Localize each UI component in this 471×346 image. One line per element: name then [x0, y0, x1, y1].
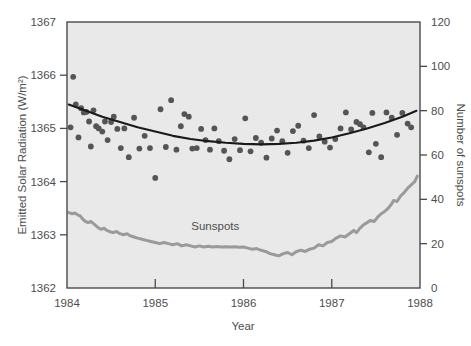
scatter-point — [121, 126, 127, 132]
x-axis-tick-label: 1985 — [142, 297, 168, 309]
scatter-point — [311, 112, 317, 118]
scatter-point — [99, 129, 105, 135]
x-axis-tick-label: 1988 — [407, 297, 433, 309]
scatter-point — [86, 119, 92, 125]
y-axis-right-tick-label: 120 — [431, 16, 450, 28]
scatter-point — [237, 147, 243, 153]
scatter-point — [174, 147, 180, 153]
scatter-point — [211, 126, 217, 132]
scatter-point — [378, 154, 384, 160]
scatter-point — [142, 133, 148, 139]
y-axis-right-tick-label: 100 — [431, 60, 450, 72]
y-axis-left-title: Emitted Solar Radiation (W/m²) — [16, 75, 28, 234]
scatter-point — [264, 155, 270, 161]
y-axis-left-tick-label: 1367 — [30, 16, 56, 28]
scatter-point — [136, 146, 142, 152]
scatter-point — [131, 115, 137, 121]
x-axis-tick-label: 1987 — [319, 297, 345, 309]
y-axis-left-tick-label: 1362 — [30, 282, 56, 294]
scatter-point — [369, 110, 375, 116]
series-annotations: Sunspots — [191, 220, 239, 232]
y-axis-left-tick-label: 1366 — [30, 69, 56, 81]
scatter-point — [343, 110, 349, 116]
scatter-point — [221, 148, 227, 154]
scatter-point — [384, 110, 390, 116]
scatter-point — [248, 148, 254, 154]
scatter-point — [126, 154, 132, 160]
chart-figure: 136213631364136513661367 020406080100120… — [0, 0, 471, 346]
scatter-point — [152, 175, 158, 181]
x-axis-tick-label: 1984 — [54, 297, 80, 309]
y-axis-right-tick-label: 0 — [431, 282, 437, 294]
scatter-point — [118, 145, 124, 151]
scatter-point — [186, 114, 192, 120]
y-axis-right-tick-label: 40 — [431, 193, 444, 205]
x-axis-title: Year — [231, 320, 254, 332]
scatter-point — [226, 156, 232, 162]
scatter-point — [295, 123, 301, 129]
scatter-point — [394, 132, 400, 138]
scatter-point — [198, 126, 204, 132]
scatter-point — [68, 124, 74, 130]
scatter-point — [274, 128, 280, 134]
scatter-point — [168, 97, 174, 103]
y-axis-right-tick-label: 80 — [431, 105, 444, 117]
x-axis-tick-label: 1986 — [231, 297, 257, 309]
y-axis-right-tick-label: 20 — [431, 238, 444, 250]
scatter-point — [290, 128, 296, 134]
scatter-point — [242, 115, 248, 121]
scatter-point — [285, 150, 291, 156]
scatter-point — [253, 135, 259, 141]
scatter-point — [306, 145, 312, 151]
scatter-point — [114, 126, 120, 132]
scatter-point — [232, 136, 238, 142]
y-axis-left-tick-label: 1363 — [30, 229, 56, 241]
scatter-point — [105, 137, 111, 143]
scatter-point — [194, 145, 200, 151]
sunspots-annotation-label: Sunspots — [191, 220, 239, 232]
scatter-point — [70, 74, 76, 80]
scatter-point — [269, 136, 275, 142]
scatter-point — [327, 145, 333, 151]
scatter-point — [163, 144, 169, 150]
scatter-point — [408, 124, 414, 130]
scatter-point — [88, 144, 94, 150]
scatter-point — [207, 147, 213, 153]
scatter-point — [178, 123, 184, 129]
y-axis-left-tick-label: 1365 — [30, 122, 56, 134]
scatter-point — [147, 145, 153, 151]
solar-radiation-sunspot-chart: 136213631364136513661367 020406080100120… — [0, 0, 471, 346]
y-axis-right-title: Number of sunspots — [455, 104, 467, 207]
scatter-point — [102, 119, 108, 125]
y-axis-right-tick-label: 60 — [431, 149, 444, 161]
scatter-point — [158, 106, 164, 112]
scatter-point — [76, 135, 82, 141]
scatter-point — [373, 141, 379, 147]
y-axis-left-tick-label: 1364 — [30, 176, 56, 188]
scatter-point — [338, 126, 344, 132]
scatter-point — [366, 149, 372, 155]
